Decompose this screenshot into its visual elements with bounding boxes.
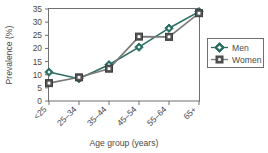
legend-label-men: Men (232, 43, 249, 53)
data-point-women-1 (76, 74, 83, 81)
x-axis-category-label: 65+ (181, 104, 198, 121)
y-axis-tick-label: 30 (33, 17, 43, 27)
data-point-women-5 (196, 10, 203, 17)
data-point-women-3 (136, 33, 143, 40)
x-axis-category-label: 25–34 (55, 104, 79, 128)
y-axis-title: Prevalence (%) (4, 25, 14, 84)
x-axis-category-label: 55–64 (145, 104, 169, 128)
y-axis-tick-labels: 05101520253035 (33, 4, 43, 106)
prevalence-by-age-line-chart: 05101520253035 <2525–3435–4445–5455–6465… (0, 0, 268, 153)
x-axis-category-label: 35–44 (85, 104, 109, 128)
chart-figure: 05101520253035 <2525–3435–4445–5455–6465… (0, 0, 268, 153)
data-point-women-0 (46, 80, 53, 87)
x-axis-ticks (49, 101, 199, 105)
data-point-women-4 (166, 33, 173, 40)
chart-legend: Men Women (208, 39, 264, 68)
y-axis-tick-label: 10 (33, 70, 43, 80)
legend-entry-women: Women (211, 55, 262, 65)
plot-area-frame (49, 9, 200, 102)
y-axis-tick-label: 25 (33, 30, 43, 40)
y-axis-tick-label: 15 (33, 57, 43, 67)
x-axis-category-label: 45–54 (115, 104, 139, 128)
data-point-women-2 (106, 65, 113, 72)
x-axis-title: Age group (years) (90, 138, 159, 148)
legend-label-women: Women (232, 55, 262, 65)
y-axis-tick-label: 5 (37, 83, 42, 93)
square-marker-icon (216, 56, 223, 63)
y-axis-tick-label: 35 (33, 4, 43, 14)
y-axis-tick-label: 20 (33, 43, 43, 53)
x-axis-category-label: <25 (31, 104, 48, 121)
x-axis-category-labels: <2525–3435–4445–5455–6465+ (31, 104, 198, 128)
